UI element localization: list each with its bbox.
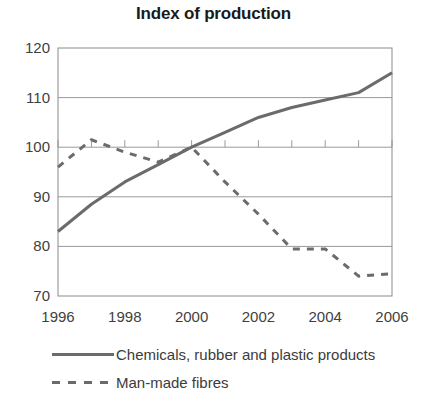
series-line-man-made-fibres — [58, 140, 392, 276]
y-tick-label: 110 — [8, 89, 50, 106]
legend-item-chemicals: Chemicals, rubber and plastic products — [0, 340, 427, 368]
legend-swatch-solid-icon — [52, 348, 114, 360]
x-tick-label: 2004 — [297, 308, 353, 325]
legend-label-man-made-fibres: Man-made fibres — [116, 374, 229, 391]
series-lines — [58, 73, 392, 276]
series-line-chemicals — [58, 73, 392, 232]
x-tick-label: 2002 — [230, 308, 286, 325]
x-tick-label: 2000 — [164, 308, 220, 325]
legend-swatch-dashed-icon — [52, 376, 114, 388]
x-tick-label: 1998 — [97, 308, 153, 325]
legend-label-chemicals: Chemicals, rubber and plastic products — [116, 346, 375, 363]
legend-item-man-made-fibres: Man-made fibres — [0, 368, 427, 396]
y-tick-label: 100 — [8, 138, 50, 155]
chart-container: Index of production 708090100110120 1996… — [0, 0, 427, 404]
y-tick-label: 120 — [8, 39, 50, 56]
y-tick-label: 90 — [8, 188, 50, 205]
y-tick-label: 70 — [8, 287, 50, 304]
chart-legend: Chemicals, rubber and plastic products M… — [0, 340, 427, 396]
y-tick-label: 80 — [8, 237, 50, 254]
x-tick-label: 2006 — [364, 308, 420, 325]
plot-frame — [58, 48, 392, 296]
gridlines — [58, 98, 392, 247]
x-tick-label: 1996 — [30, 308, 86, 325]
